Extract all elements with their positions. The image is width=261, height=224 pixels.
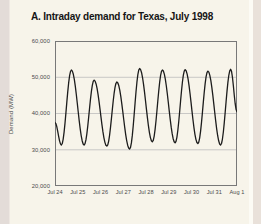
y-tick-label: 60,000 [10,38,50,44]
y-tick-label: 30,000 [10,147,50,153]
x-tick-label: Aug 1 [230,189,245,195]
y-tick-label: 20,000 [10,183,50,189]
page-edge-right [253,0,261,224]
chart-title: A. Intraday demand for Texas, July 1998 [31,11,253,22]
x-tick-label: Jul 24 [47,189,62,195]
demand-line-plot [55,41,237,186]
plot-area [55,41,237,186]
x-tick-label: Jul 25 [70,189,85,195]
x-tick-label: Jul 27 [116,189,131,195]
x-tick-label: Jul 31 [207,189,222,195]
x-tick-label: Jul 26 [93,189,108,195]
x-tick-label: Jul 28 [138,189,153,195]
x-tick-label: Jul 29 [161,189,176,195]
y-tick-label: 40,000 [10,110,50,116]
x-tick-label: Jul 30 [184,189,199,195]
y-tick-label: 50,000 [10,74,50,80]
